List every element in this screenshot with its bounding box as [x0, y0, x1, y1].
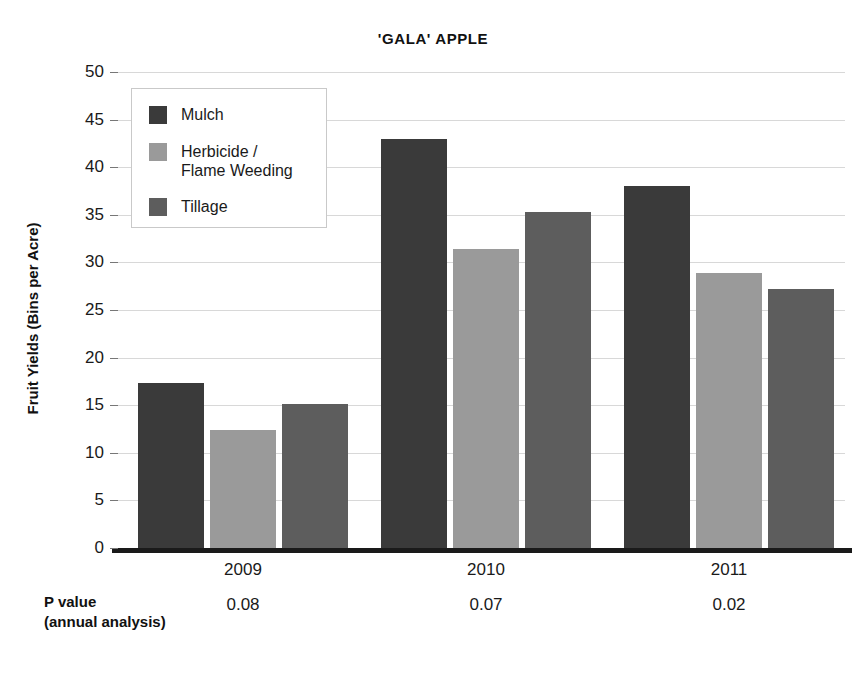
legend-swatch-icon: [149, 198, 167, 216]
bar-2010-series-2: [453, 249, 519, 548]
y-tick-mark-10: [110, 453, 118, 454]
legend-swatch-icon: [149, 143, 167, 161]
y-tick-mark-30: [110, 262, 118, 263]
y-tick-mark-25: [110, 310, 118, 311]
pvalue-2011: 0.02: [669, 595, 789, 615]
x-group-label-2011: 2011: [669, 560, 789, 580]
bars-layer: [0, 0, 866, 683]
x-group-label-2010: 2010: [426, 560, 546, 580]
legend-item-3[interactable]: Tillage: [149, 197, 228, 216]
legend-item-1[interactable]: Mulch: [149, 105, 224, 124]
pvalue-caption: P value (annual analysis): [44, 592, 166, 632]
y-tick-mark-0: [110, 548, 118, 549]
y-tick-mark-5: [110, 500, 118, 501]
y-tick-mark-50: [110, 72, 118, 73]
y-tick-mark-45: [110, 120, 118, 121]
x-group-label-2009: 2009: [183, 560, 303, 580]
bar-2011-series-1: [624, 186, 690, 548]
pvalue-2009: 0.08: [183, 595, 303, 615]
bar-2011-series-2: [696, 273, 762, 548]
legend-item-2[interactable]: Herbicide / Flame Weeding: [149, 142, 293, 180]
pvalue-2010: 0.07: [426, 595, 546, 615]
y-tick-mark-20: [110, 358, 118, 359]
bar-2010-series-3: [525, 212, 591, 548]
legend-swatch-icon: [149, 106, 167, 124]
chart-legend: MulchHerbicide / Flame WeedingTillage: [131, 88, 327, 228]
y-tick-mark-35: [110, 215, 118, 216]
x-axis-line: [112, 548, 852, 553]
bar-2009-series-2: [210, 430, 276, 548]
bar-2010-series-1: [381, 139, 447, 548]
bar-2009-series-1: [138, 383, 204, 548]
y-tick-mark-40: [110, 167, 118, 168]
legend-label: Herbicide / Flame Weeding: [181, 142, 293, 180]
legend-label: Tillage: [181, 197, 228, 216]
bar-2011-series-3: [768, 289, 834, 548]
bar-2009-series-3: [282, 404, 348, 548]
legend-label: Mulch: [181, 105, 224, 124]
y-tick-mark-15: [110, 405, 118, 406]
